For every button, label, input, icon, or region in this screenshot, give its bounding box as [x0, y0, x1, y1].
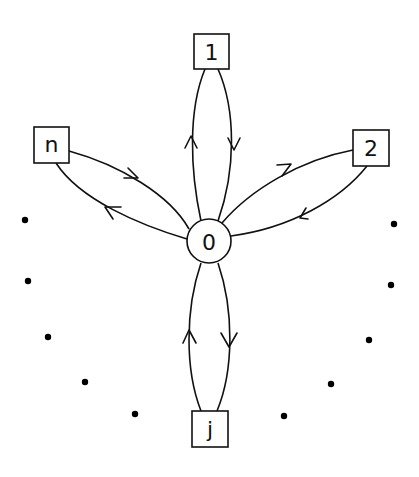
arrow-down-icon [228, 138, 240, 150]
hub-label: 0 [202, 230, 216, 255]
node-2: 2 [353, 130, 389, 166]
node-1-label: 1 [205, 40, 219, 65]
edge-0-to-2 [222, 150, 353, 223]
ellipsis-dots-left [22, 217, 138, 417]
edge-1-to-0 [218, 69, 232, 221]
ellipsis-dots-right [281, 221, 397, 419]
edge-2-to-0 [231, 166, 367, 236]
node-1: 1 [194, 34, 229, 69]
node-n: n [34, 127, 69, 163]
edge-0-to-1 [192, 69, 205, 221]
node-j: j [192, 411, 228, 447]
node-j-label: j [206, 417, 213, 442]
node-n-label: n [45, 132, 59, 157]
edge-j-to-0 [189, 263, 201, 411]
edge-0-to-n [56, 163, 187, 239]
node-2-label: 2 [364, 136, 378, 161]
star-graph-diagram: 0 1 2 n j [0, 0, 419, 477]
arrow-up-icon [185, 136, 197, 148]
arrow-out-icon [277, 164, 291, 176]
hub-node: 0 [187, 219, 231, 263]
